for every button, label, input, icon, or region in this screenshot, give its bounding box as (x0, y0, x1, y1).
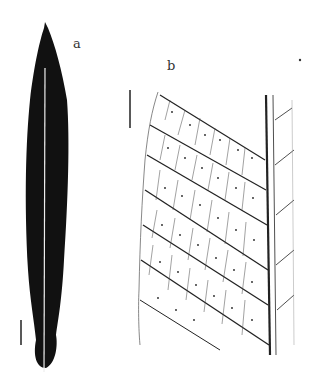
leaf-illustration (0, 0, 322, 390)
venation-detail (139, 92, 294, 355)
leaf-silhouette (26, 22, 69, 372)
